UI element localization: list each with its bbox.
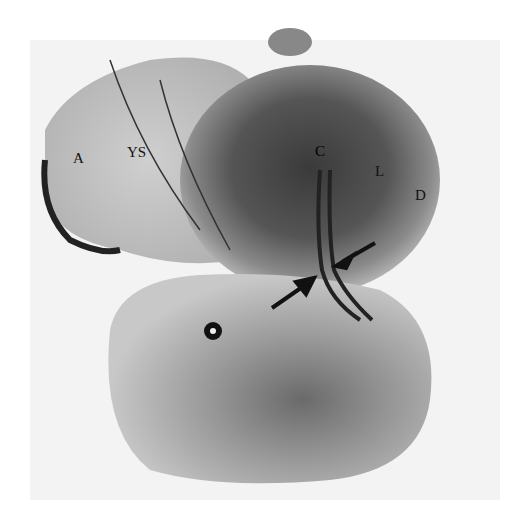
label-d: D: [415, 187, 426, 204]
label-c: C: [315, 143, 325, 160]
label-ys: YS: [127, 144, 146, 161]
label-a: A: [73, 150, 84, 167]
placenta: [180, 65, 440, 295]
embryo-photo: [0, 0, 528, 524]
fetus: [108, 274, 431, 483]
label-l: L: [375, 163, 384, 180]
